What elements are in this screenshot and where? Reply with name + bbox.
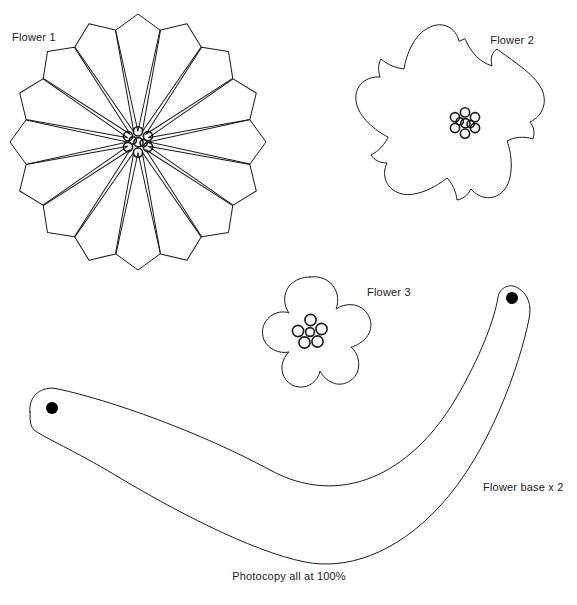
flower-3-label: Flower 3 (367, 286, 411, 298)
flower-3-stamen-cluster (292, 314, 327, 348)
punch-hole-left (46, 402, 58, 414)
artwork-canvas (0, 0, 577, 605)
flower-2-outline (356, 25, 545, 200)
flower-base-label: Flower base x 2 (483, 481, 564, 493)
flower-base-template (30, 286, 530, 564)
flower-2-stamen-cluster (450, 108, 479, 138)
flower-1-label: Flower 1 (12, 31, 56, 43)
flower-1-petals (10, 14, 266, 270)
flower-1-template (10, 14, 266, 270)
flower-2-label: Flower 2 (490, 34, 534, 46)
flower-base-outline (30, 286, 530, 564)
flower-3-template (262, 277, 370, 387)
photocopy-note: Photocopy all at 100% (232, 570, 346, 582)
flower-2-template (356, 25, 545, 200)
template-sheet: Flower 1 Flower 2 Flower 3 Flower base x… (0, 0, 577, 605)
punch-hole-right (506, 292, 518, 304)
